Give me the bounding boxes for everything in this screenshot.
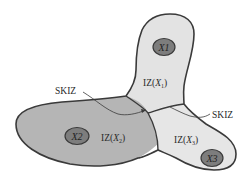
svg-text:X3: X3 [205, 153, 217, 164]
annotation-skiz-right: SKIZ [212, 110, 233, 120]
label-iz-x2: IZ(X2) [101, 133, 125, 144]
label-iz-x3: IZ(X3) [174, 135, 198, 146]
marker-x3: X3 [201, 150, 223, 167]
influence-zone-diagram: X1 X2 X3 IZ(X1) IZ(X2) IZ(X3) SKIZ SKIZ [0, 0, 251, 186]
label-iz-x1: IZ(X1) [143, 78, 167, 89]
annotation-skiz-left: SKIZ [55, 86, 76, 96]
svg-text:X2: X2 [70, 131, 82, 142]
marker-x1: X1 [153, 39, 175, 56]
marker-x2: X2 [65, 128, 89, 145]
svg-text:X1: X1 [157, 42, 169, 53]
